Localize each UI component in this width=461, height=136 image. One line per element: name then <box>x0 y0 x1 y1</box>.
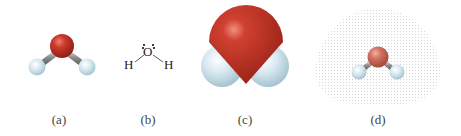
hydrogen-atom-icon <box>79 59 96 76</box>
oxygen-atom-icon <box>368 47 389 68</box>
hydrogen-atom-icon <box>29 59 46 76</box>
panel-label-c: (c) <box>225 112 265 128</box>
space-filling-model <box>201 5 289 87</box>
panel-label-d: (d) <box>358 112 398 128</box>
bond-line-right <box>153 55 163 62</box>
panel-label-a: (a) <box>39 112 79 128</box>
lewis-hydrogen-right: H <box>164 57 173 73</box>
ball-and-stick-model <box>29 34 96 76</box>
hydrogen-atom-icon <box>352 65 367 80</box>
lewis-hydrogen-left: H <box>124 57 133 73</box>
lewis-oxygen: O <box>143 44 152 60</box>
hydrogen-atom-icon <box>390 65 405 80</box>
lone-pair-dot <box>153 47 155 49</box>
oxygen-atom-icon <box>50 34 74 58</box>
electron-cloud-model <box>316 8 440 106</box>
panel-label-b: (b) <box>128 112 168 128</box>
